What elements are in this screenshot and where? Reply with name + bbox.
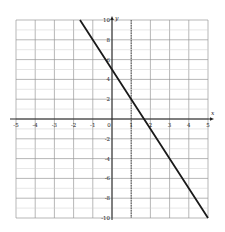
x-tick-label: -3 (52, 122, 58, 128)
y-tick-label: 10 (103, 17, 110, 23)
y-tick-label: -4 (105, 156, 111, 162)
y-tick-label: 8 (107, 37, 111, 43)
x-tick-label: 5 (206, 122, 210, 128)
x-tick-label: -1 (90, 122, 95, 128)
x-axis-arrow-icon (210, 117, 214, 121)
x-tick-label: -2 (71, 122, 76, 128)
y-tick-label: 4 (107, 76, 111, 82)
y-tick-label: -6 (105, 175, 111, 181)
x-tick-label: 0 (107, 122, 111, 128)
x-tick-label: -4 (33, 122, 39, 128)
x-tick-label: 4 (187, 122, 191, 128)
axes (10, 16, 214, 220)
coordinate-plane: -5-4-3-2-1012345108642-2-4-6-8-10 x y (0, 0, 225, 232)
y-tick-label: -8 (105, 195, 111, 201)
x-tick-label: 3 (168, 122, 172, 128)
x-axis-label: x (211, 109, 215, 116)
y-tick-label: 2 (107, 96, 111, 102)
y-tick-label: -2 (105, 136, 110, 142)
x-tick-label: -5 (13, 122, 19, 128)
y-axis-label: y (114, 14, 119, 22)
y-axis-arrow-icon (110, 16, 114, 20)
y-tick-label: -10 (101, 215, 110, 221)
